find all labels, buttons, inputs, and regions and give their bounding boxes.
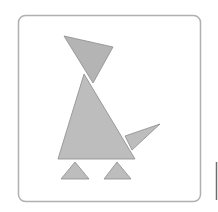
tangram-figure: [0, 0, 218, 212]
